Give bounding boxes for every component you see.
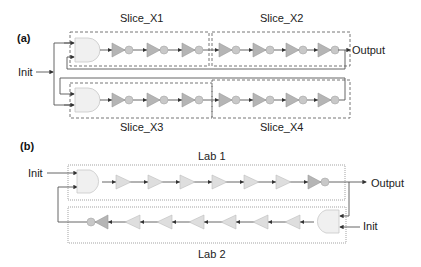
lab1-label: Lab 1: [198, 150, 226, 162]
inverter-icon: [253, 43, 274, 57]
buffer-icon: [180, 175, 195, 189]
and-gate-x3: [75, 88, 100, 112]
and-gate-lab2: [317, 210, 339, 233]
output-label-a: Output: [352, 44, 385, 56]
output-label-b: Output: [371, 177, 404, 189]
buffer-icon: [253, 215, 268, 229]
slice-x3-label: Slice_X3: [120, 121, 163, 133]
buffer-icon: [148, 175, 163, 189]
diagram-canvas: (a) Slice_X1 Slice_X2 Slice_X3 Slice_X4 …: [0, 0, 421, 267]
inverter-icon: [286, 93, 307, 107]
buffer-icon: [189, 215, 204, 229]
inverter-icon: [308, 175, 329, 189]
lab1-box: [68, 165, 345, 200]
buffer-icon: [244, 175, 259, 189]
inverter-icon: [253, 93, 274, 107]
lab2-label: Lab 2: [198, 248, 226, 260]
bottom-row-chain: [100, 93, 345, 107]
inverter-icon: [112, 93, 133, 107]
panel-b-label: (b): [20, 140, 34, 152]
init-label-a: Init: [18, 66, 33, 78]
inverter-icon: [112, 43, 133, 57]
init-label-b-bottom: Init: [363, 220, 378, 232]
feedback-lab1-to-lab2: [340, 182, 349, 216]
lab2-box: [68, 207, 346, 243]
lab2-chain: [58, 215, 314, 229]
and-gate-x1: [75, 38, 100, 62]
buffer-icon: [116, 175, 131, 189]
buffer-icon: [212, 175, 227, 189]
inverter-icon: [318, 93, 339, 107]
buffer-icon: [285, 215, 300, 229]
inverter-icon: [182, 93, 203, 107]
slice-x1-label: Slice_X1: [120, 12, 163, 24]
buffer-icon: [276, 175, 291, 189]
slice-x4-label: Slice_X4: [260, 121, 303, 133]
top-row-chain: [100, 43, 339, 57]
inverter-icon: [219, 93, 240, 107]
inverter-icon: [147, 43, 168, 57]
inverter-icon: [318, 43, 339, 57]
buffer-icon: [157, 215, 172, 229]
inverter-icon: [87, 215, 108, 229]
inverter-icon: [219, 43, 240, 57]
inverter-icon: [147, 93, 168, 107]
panel-a-label: (a): [17, 32, 31, 44]
inverter-icon: [286, 43, 307, 57]
init-label-b-top: Init: [28, 167, 43, 179]
buffer-icon: [125, 215, 140, 229]
feedback-lab2-to-lab1: [58, 187, 77, 222]
buffer-icon: [221, 215, 236, 229]
and-gate-lab1: [77, 170, 99, 193]
lab1-chain: [102, 175, 350, 189]
slice-x2-label: Slice_X2: [260, 12, 303, 24]
inverter-icon: [182, 43, 203, 57]
